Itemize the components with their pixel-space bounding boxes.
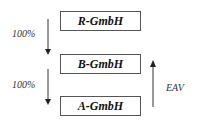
entity-label: B-GmbH bbox=[78, 57, 123, 72]
entity-b-gmbh: B-GmbH bbox=[60, 54, 141, 74]
entity-label: A-GmbH bbox=[78, 99, 123, 114]
relation-label-b-a: 100% bbox=[12, 79, 35, 90]
arrow-b-to-a bbox=[45, 69, 51, 105]
relation-label-eav: EAV bbox=[166, 82, 184, 93]
arrow-r-to-b bbox=[45, 19, 51, 55]
arrow-a-to-b-eav bbox=[150, 60, 156, 107]
entity-label: R-GmbH bbox=[78, 14, 123, 29]
relation-label-r-b: 100% bbox=[12, 28, 35, 39]
entity-a-gmbh: A-GmbH bbox=[60, 96, 141, 116]
entity-r-gmbh: R-GmbH bbox=[60, 11, 141, 31]
